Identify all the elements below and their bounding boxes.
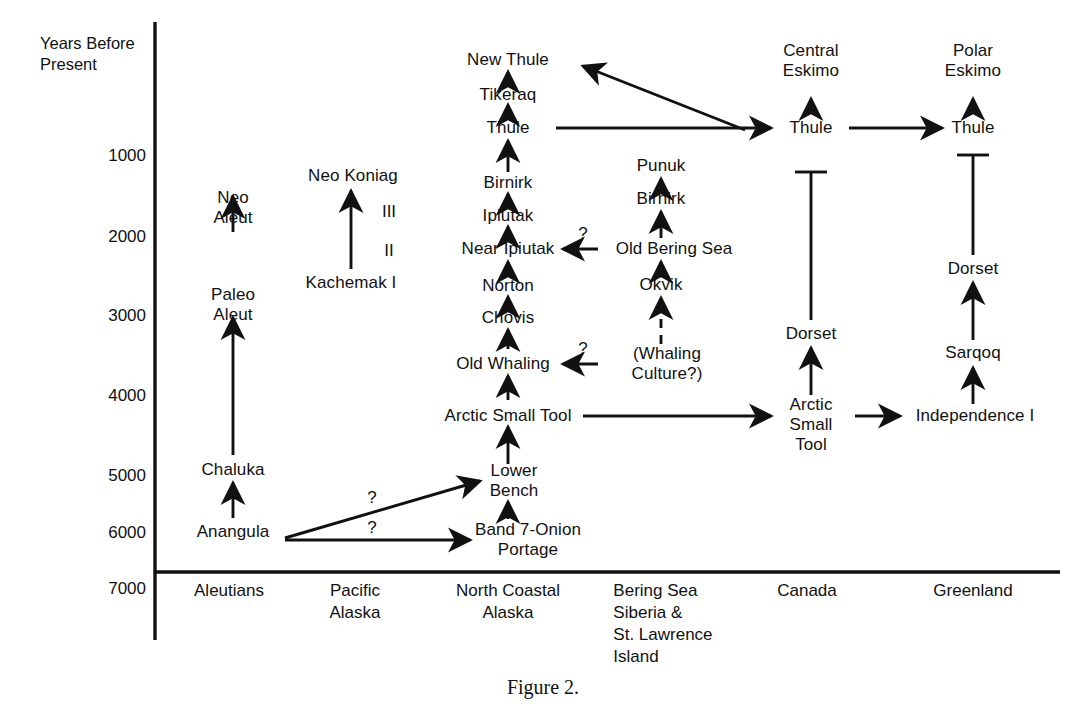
column-header-pacific-alaska: Pacific Alaska [329, 580, 380, 624]
node-sarqoq: Sarqoq [945, 343, 1000, 363]
column-header-bering-sea: Bering Sea Siberia & St. Lawrence Island [613, 580, 712, 668]
figure-caption: Figure 2. [507, 676, 579, 699]
node-lower-bench: Lower Bench [490, 461, 539, 501]
node-old-bering-sea: Old Bering Sea [616, 239, 733, 259]
node-neo-aleut: Neo Aleut [213, 188, 252, 228]
y-tick-3000: 3000 [108, 306, 146, 326]
node-old-whaling: Old Whaling [456, 354, 550, 374]
column-header-north-coastal-alaska: North Coastal Alaska [456, 580, 560, 624]
node-chaluka: Chaluka [201, 460, 264, 480]
node-chovis: Chovis [482, 308, 535, 328]
node-thule-canada: Thule [789, 118, 832, 138]
node-arctic-small-tool-north-coastal: Arctic Small Tool [444, 406, 571, 426]
node-dorset-greenland: Dorset [948, 259, 999, 279]
question-mark-anangula-lower-bench: ? [367, 489, 376, 506]
node-whaling-culture: (Whaling Culture?) [632, 344, 703, 384]
arrow-canada-to-new-thule [583, 66, 745, 130]
node-punuk: Punuk [637, 156, 686, 176]
node-norton: Norton [482, 276, 534, 296]
y-tick-2000: 2000 [108, 227, 146, 247]
node-ipiutak: Ipiutak [483, 206, 534, 226]
question-mark-whaling-culture: ? [578, 340, 587, 357]
arrow-anangula-to-lower-bench [285, 481, 480, 538]
y-axis-title: Years Before Present [40, 33, 135, 75]
label-roman-iii: III [382, 202, 396, 221]
y-tick-1000: 1000 [108, 146, 146, 166]
node-tikeraq: Tikeraq [480, 85, 537, 105]
node-central-eskimo: Central Eskimo [783, 41, 839, 81]
column-header-greenland: Greenland [933, 580, 1012, 602]
node-arctic-small-tool-canada: Arctic Small Tool [789, 395, 832, 455]
node-near-ipiutak: Near Ipiutak [462, 239, 555, 259]
y-tick-7000: 7000 [108, 579, 146, 599]
y-tick-6000: 6000 [108, 523, 146, 543]
figure-root: Years Before Present 1000 2000 3000 4000… [0, 0, 1086, 720]
node-paleo-aleut: Paleo Aleut [211, 285, 255, 325]
node-band-7-onion-portage: Band 7-Onion Portage [475, 520, 581, 560]
y-tick-5000: 5000 [108, 466, 146, 486]
question-mark-old-bering-sea: ? [578, 225, 587, 242]
node-neo-koniag: Neo Koniag [308, 166, 398, 186]
node-independence-i: Independence I [916, 406, 1035, 426]
label-roman-ii: II [384, 241, 393, 260]
node-polar-eskimo: Polar Eskimo [945, 41, 1001, 81]
node-dorset-canada: Dorset [786, 324, 837, 344]
y-tick-4000: 4000 [108, 386, 146, 406]
node-thule-greenland: Thule [951, 118, 994, 138]
node-thule-north-coastal: Thule [486, 118, 529, 138]
column-header-canada: Canada [777, 580, 837, 602]
node-birnirk-north-coastal: Birnirk [484, 173, 533, 193]
node-birnirk-bering-sea: Birnirk [637, 189, 686, 209]
column-header-aleutians: Aleutians [194, 580, 264, 602]
node-anangula: Anangula [197, 522, 270, 542]
node-kachemak-i: Kachemak I [306, 273, 397, 293]
node-okvik: Okvik [640, 275, 683, 295]
node-new-thule: New Thule [467, 50, 549, 70]
question-mark-anangula-band7: ? [367, 519, 376, 536]
